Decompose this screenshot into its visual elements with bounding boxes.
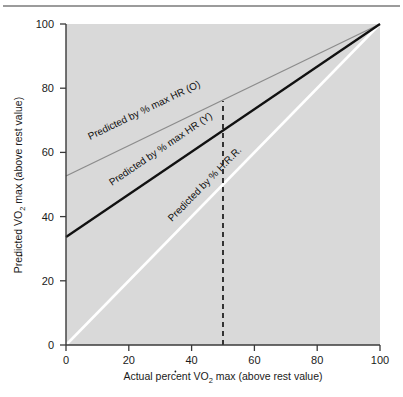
x-tick-label-0: 0: [63, 354, 69, 366]
figure-container: 0 20 40 60 80 100 0 20 40 60 80 100 Actu…: [0, 0, 403, 397]
x-axis-title-part3: max (above rest value): [213, 370, 323, 382]
chart-canvas: 0 20 40 60 80 100 0 20 40 60 80 100 Actu…: [0, 0, 403, 397]
x-tick-label-20: 20: [123, 354, 135, 366]
x-axis-ticks: [66, 345, 380, 351]
y-tick-label-0: 0: [48, 339, 54, 351]
y-tick-label-40: 40: [42, 211, 54, 223]
x-axis-title-part1: Actual percent V: [123, 370, 200, 382]
y-axis-ticks: [60, 24, 66, 345]
x-axis-title-part2: O: [200, 370, 208, 382]
x-tick-label-80: 80: [311, 354, 323, 366]
x-tick-label-60: 60: [248, 354, 260, 366]
y-axis-title-part2: O: [12, 211, 24, 219]
x-tick-label-100: 100: [371, 354, 389, 366]
y-axis-title-part1: Predicted V: [12, 219, 24, 273]
y-tick-label-80: 80: [42, 82, 54, 94]
x-axis-vdot-icon: [175, 371, 177, 373]
y-tick-label-20: 20: [42, 275, 54, 287]
y-tick-label-100: 100: [36, 18, 54, 30]
x-tick-label-40: 40: [185, 354, 197, 366]
y-tick-label-60: 60: [42, 146, 54, 158]
y-axis-title: Predicted VO2 max (above rest value): [12, 97, 27, 273]
y-axis-vdot-icon: [21, 255, 23, 257]
x-axis-title: Actual percent VO2 max (above rest value…: [123, 370, 322, 385]
y-axis-title-part3: max (above rest value): [12, 97, 24, 207]
